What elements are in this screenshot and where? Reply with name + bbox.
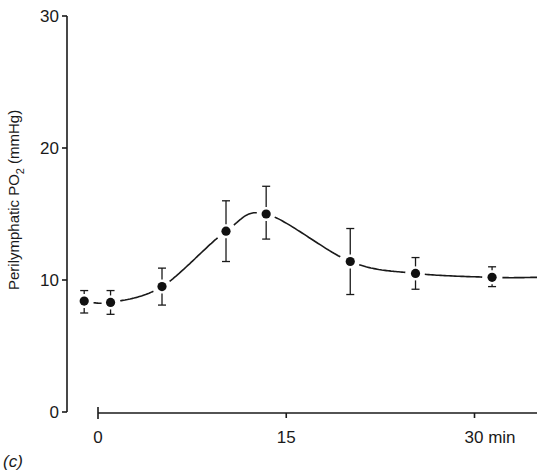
curve-segment	[120, 291, 153, 301]
x-tick-label: 0	[93, 428, 102, 447]
curve-segment	[94, 303, 102, 304]
y-tick-label: 10	[40, 271, 59, 290]
y-axis-title-main: Perilymphatic PO	[5, 174, 22, 290]
y-tick-label: 30	[40, 7, 59, 26]
curve-segment	[275, 217, 341, 257]
y-tick-label: 0	[50, 403, 59, 422]
y-axis-title-subscript: 2	[14, 168, 26, 174]
curve-segment	[170, 238, 218, 281]
data-point	[157, 282, 166, 291]
data-point	[411, 269, 420, 278]
y-axis-title-unit: (mmHg)	[5, 110, 22, 164]
data-point	[221, 227, 230, 236]
data-point	[487, 273, 496, 282]
x-tick-label: 30 min	[465, 428, 516, 447]
y-axis-title: Perilymphatic PO2(mmHg)	[5, 110, 26, 290]
y-tick-label: 20	[40, 139, 59, 158]
data-point	[80, 297, 89, 306]
curve-segment	[425, 274, 482, 277]
data-point	[262, 209, 271, 218]
panel-label: (c)	[3, 452, 23, 471]
curve-segment	[234, 213, 257, 225]
chart: 0102030 01530 min Perilymphatic PO2(mmHg…	[0, 0, 537, 475]
curve-segment	[359, 265, 405, 273]
data-point	[346, 257, 355, 266]
x-tick-label: 15	[277, 428, 296, 447]
y-ticks: 0102030	[40, 7, 67, 422]
data-point	[106, 298, 115, 307]
